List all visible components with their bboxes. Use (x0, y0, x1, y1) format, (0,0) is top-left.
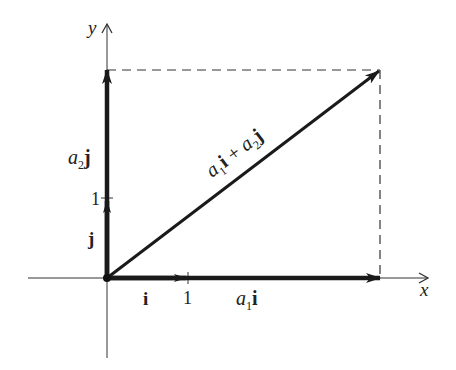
x-axis-label: x (419, 279, 429, 300)
origin-point (103, 274, 111, 282)
i-label: i (143, 288, 148, 309)
a1i-label: a1i (236, 287, 258, 313)
sum-vector-label: a1i + a2j (201, 124, 269, 184)
vector-diagram: y x 1 1 i j a1i a2j a1i + a2j (0, 0, 456, 370)
a2j-label: a2j (68, 146, 91, 172)
y-tick-label: 1 (91, 189, 100, 209)
sum-vector (107, 71, 379, 278)
x-tick-label: 1 (183, 288, 192, 308)
y-axis-label: y (86, 17, 97, 38)
j-label: j (87, 228, 94, 249)
